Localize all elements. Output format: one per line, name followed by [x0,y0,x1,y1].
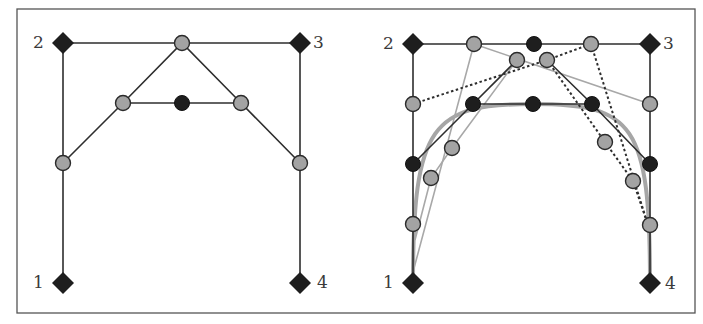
control-polygon-line [413,44,650,283]
control-point-label-1: 1 [33,272,44,292]
midpoint-black-dot [406,157,421,172]
control-point-diamond-1 [52,272,74,294]
midpoint-black-dot [527,37,542,52]
control-point-diamond-3 [289,32,311,54]
subdivision-gray-point [406,97,421,112]
subdivision-gray-point [510,53,525,68]
subdivision-gray-point [56,156,71,171]
subdivision-gray-point [406,217,421,232]
control-point-diamond-2 [402,33,424,55]
subdivision-gray-point [598,135,613,150]
subdivision-gray-point [175,36,190,51]
control-point-label-4: 4 [665,273,676,293]
subdivision-gray-point [445,141,460,156]
control-point-label-1: 1 [383,272,394,292]
midpoint-black-dot [585,97,600,112]
control-point-diamond-4 [289,272,311,294]
subdivision-gray-point [626,174,641,189]
midpoint-black-dot [526,97,541,112]
midpoint-black-dot [175,96,190,111]
subdivision-gray-point [643,97,658,112]
subdivision-gray-point [293,156,308,171]
subdivision-gray-point [540,53,555,68]
subdivision-gray-point [424,171,439,186]
control-point-diamond-4 [639,272,661,294]
control-point-diamond-3 [639,33,661,55]
control-point-diamond-2 [52,32,74,54]
control-point-label-3: 3 [313,32,324,52]
subdivision-gray-point [234,96,249,111]
subdivision-gray-point [643,218,658,233]
midpoint-black-dot [466,97,481,112]
control-point-label-2: 2 [383,33,394,53]
control-point-label-4: 4 [317,272,328,292]
midpoint-black-dot [643,157,658,172]
subdivision-gray-point [116,96,131,111]
bezier-subdivision-figure: 1234 1234 [0,0,703,324]
light-construction-line [413,44,650,272]
control-point-label-2: 2 [33,32,44,52]
subdivision-gray-point [467,37,482,52]
right-panel-subdivision: 1234 [383,33,676,294]
bezier-curve [413,104,650,283]
subdivision-gray-point [584,37,599,52]
control-polygon-line [63,43,300,283]
left-panel-de-casteljau: 1234 [33,32,328,294]
control-point-diamond-1 [402,272,424,294]
control-point-label-3: 3 [663,33,674,53]
